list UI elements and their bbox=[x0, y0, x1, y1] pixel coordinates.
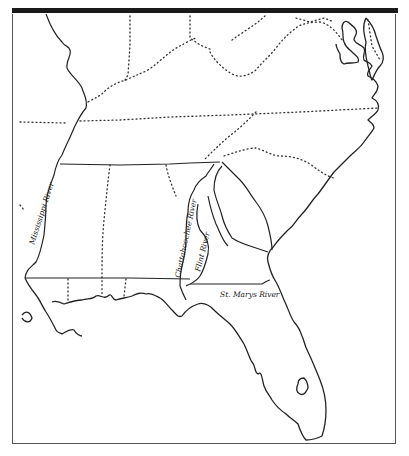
state-boundary-dotted bbox=[166, 165, 176, 196]
state-boundary-dotted bbox=[190, 16, 212, 50]
lake-okeechobee bbox=[297, 378, 308, 395]
state-boundary-dotted bbox=[80, 108, 378, 121]
state-boundary-dotted bbox=[296, 18, 334, 22]
georgia-florida-border bbox=[190, 280, 270, 284]
state-boundary-dotted bbox=[224, 148, 334, 178]
altamaha-river-line bbox=[214, 166, 268, 252]
state-boundary-dotted bbox=[125, 16, 130, 80]
st-marys-river-label: St. Marys River bbox=[220, 290, 280, 299]
state-boundary-dotted bbox=[210, 22, 342, 76]
atlantic-coastline bbox=[267, 21, 378, 282]
state-boundary-dotted bbox=[88, 38, 196, 102]
state-boundary-dotted bbox=[20, 205, 24, 210]
state-boundary-dotted bbox=[368, 20, 380, 60]
delmarva-peninsula bbox=[364, 18, 384, 80]
state-boundary-dotted bbox=[124, 279, 126, 296]
savannah-river-line bbox=[222, 162, 272, 250]
state-boundary-dotted bbox=[204, 112, 256, 160]
gulf-states-southern-border bbox=[25, 278, 190, 279]
mississippi-river-label: Mississippi River bbox=[27, 181, 56, 247]
state-boundary-dotted bbox=[20, 122, 66, 123]
gulf-coastline bbox=[22, 278, 326, 440]
tennessee-southern-border bbox=[60, 162, 220, 165]
southeast-us-map: Mississippi River Chattahoochee River Fl… bbox=[0, 0, 409, 456]
state-boundary-dotted bbox=[232, 16, 265, 40]
flint-river-label: Flint River bbox=[193, 231, 212, 274]
state-boundary-dotted bbox=[102, 165, 110, 296]
